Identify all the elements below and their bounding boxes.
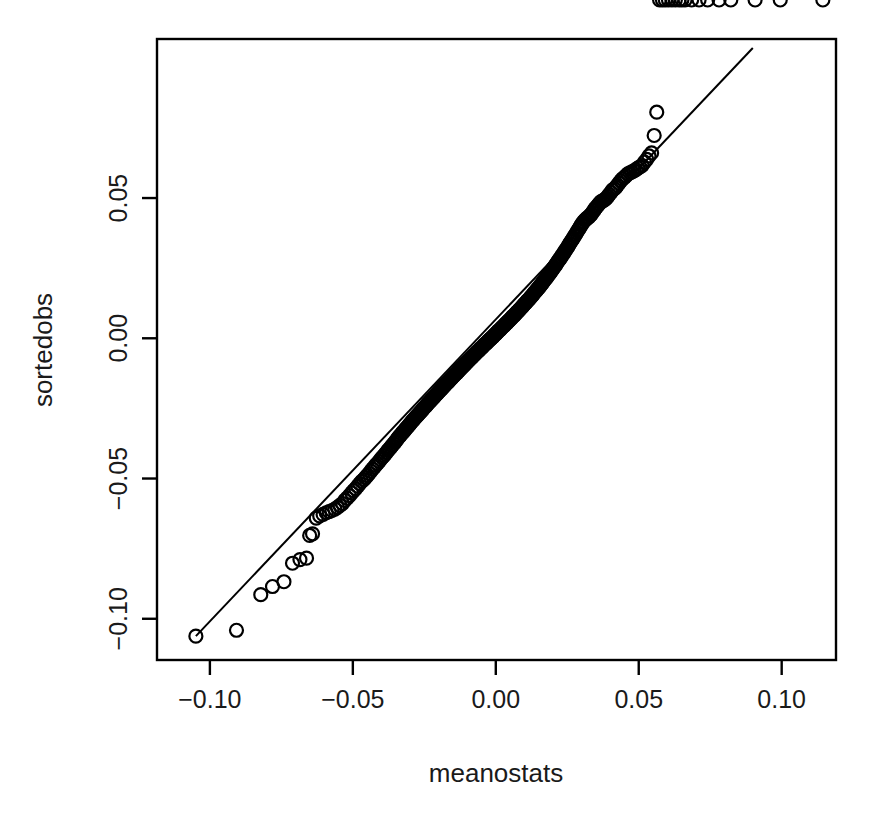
data-point — [230, 624, 243, 637]
y-axis-tick-labels: −0.10−0.050.000.05 — [104, 174, 132, 651]
x-tick-label: 0.05 — [614, 685, 663, 713]
qq-plot-canvas: −0.10−0.050.000.050.10 −0.10−0.050.000.0… — [0, 0, 883, 814]
y-tick-label: 0.05 — [104, 174, 132, 223]
y-axis-title: sortedobs — [28, 293, 58, 407]
data-point — [816, 0, 829, 7]
qq-plot-figure: −0.10−0.050.000.050.10 −0.10−0.050.000.0… — [0, 0, 883, 814]
x-tick-label: 0.00 — [471, 685, 520, 713]
x-axis-title: meanostats — [429, 758, 563, 788]
y-axis-ticks — [142, 198, 157, 619]
data-point — [774, 0, 787, 7]
y-tick-label: −0.10 — [104, 587, 132, 650]
plot-frame-group — [157, 39, 836, 660]
x-tick-label: −0.05 — [321, 685, 384, 713]
data-point — [277, 575, 290, 588]
y-tick-label: 0.00 — [104, 314, 132, 363]
plot-frame-border — [157, 39, 836, 660]
data-point — [254, 588, 267, 601]
x-tick-label: −0.10 — [178, 685, 241, 713]
x-axis-tick-labels: −0.10−0.050.000.050.10 — [178, 685, 806, 713]
reference-line-segment — [196, 48, 753, 636]
qq-reference-line — [196, 48, 753, 636]
data-point — [648, 129, 661, 142]
scatter-points — [189, 0, 829, 643]
data-point — [650, 106, 663, 119]
data-point — [749, 0, 762, 7]
y-tick-label: −0.05 — [104, 447, 132, 510]
x-tick-label: 0.10 — [757, 685, 806, 713]
x-axis-ticks — [210, 660, 782, 675]
